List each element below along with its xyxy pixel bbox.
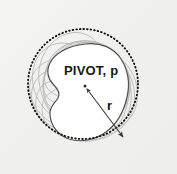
pivot-radius-diagram: PIVOT, p r [0, 0, 177, 174]
pivot-point-dot [84, 85, 87, 88]
diagram-canvas [0, 0, 177, 174]
primary-shape-outline [48, 44, 128, 141]
